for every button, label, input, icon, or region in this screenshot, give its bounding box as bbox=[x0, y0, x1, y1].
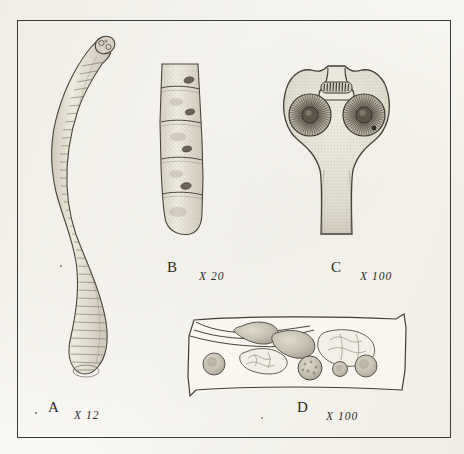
figure-c-scolex bbox=[266, 58, 406, 238]
figure-a-magnification: X 12 bbox=[74, 409, 99, 421]
scan-speck bbox=[261, 417, 263, 419]
figure-d-magnification: X 100 bbox=[326, 410, 358, 422]
scan-speck bbox=[60, 265, 62, 267]
figure-d-letter: D bbox=[297, 399, 308, 416]
figure-b-proglottid-chain bbox=[148, 62, 220, 242]
figure-a-letter: A bbox=[48, 399, 59, 416]
scan-speck bbox=[35, 412, 37, 414]
figure-b-letter: B bbox=[167, 259, 178, 276]
illustration-plate: A X 12 bbox=[0, 0, 464, 454]
figure-d-mature-proglottid bbox=[184, 306, 416, 398]
figure-c-letter: C bbox=[331, 259, 342, 276]
figure-c-magnification: X 100 bbox=[360, 270, 392, 282]
figure-b-magnification: X 20 bbox=[199, 270, 224, 282]
